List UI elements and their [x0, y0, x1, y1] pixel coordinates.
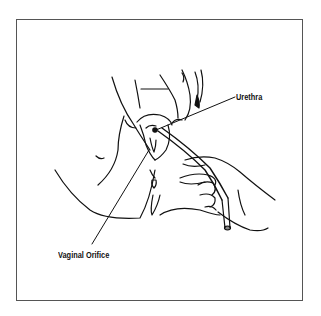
body-outline	[55, 70, 220, 218]
vaginal-orifice-leader-line	[92, 150, 149, 244]
label-urethra: Urethra	[236, 92, 262, 102]
label-vaginal-orifice: Vaginal Orifice	[58, 250, 109, 260]
hand	[180, 157, 275, 231]
catheterization-illustration	[0, 0, 321, 316]
